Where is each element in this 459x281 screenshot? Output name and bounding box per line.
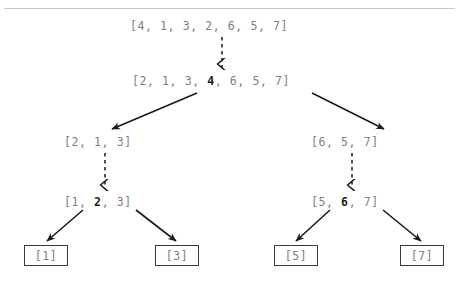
- array-node: [4, 1, 3, 2, 6, 5, 7]: [130, 19, 288, 33]
- pivot-value: 2: [94, 195, 102, 209]
- array-node: [2, 1, 3]: [64, 135, 132, 149]
- array-suffix: , 3]: [102, 195, 132, 209]
- pivot-value: 4: [207, 74, 215, 88]
- array-prefix: [1,: [64, 195, 94, 209]
- array-node: [5, 6, 7]: [311, 195, 379, 209]
- edge-solid-arrow: [47, 210, 83, 241]
- pivot-value: 6: [341, 195, 349, 209]
- edge-solid-arrow: [112, 93, 197, 129]
- array-node: [6, 5, 7]: [311, 135, 379, 149]
- edge-solid-arrow: [136, 210, 176, 241]
- edge-solid-arrow: [383, 210, 421, 241]
- array-suffix: , 7]: [349, 195, 379, 209]
- edge-solid-arrow: [296, 210, 330, 241]
- leaf-array-box: [7]: [400, 245, 444, 266]
- array-prefix: [2, 1, 3,: [132, 74, 207, 88]
- array-node: [1, 2, 3]: [64, 195, 132, 209]
- array-suffix: , 6, 5, 7]: [215, 74, 290, 88]
- array-node: [2, 1, 3, 4, 6, 5, 7]: [132, 74, 290, 88]
- leaf-array-box: [5]: [274, 245, 318, 266]
- leaf-array-box: [1]: [24, 245, 68, 266]
- top-divider-rule: [4, 8, 455, 9]
- edge-solid-arrow: [312, 93, 384, 129]
- array-prefix: [5,: [311, 195, 341, 209]
- leaf-array-box: [3]: [155, 245, 199, 266]
- diagram-canvas: [4, 1, 3, 2, 6, 5, 7][2, 1, 3, 4, 6, 5, …: [0, 0, 459, 281]
